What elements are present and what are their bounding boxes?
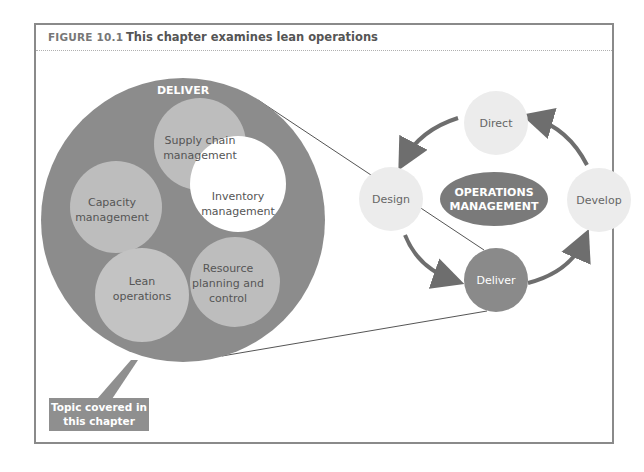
arrow-develop-to-direct-icon	[533, 118, 587, 165]
center-label-line1: OPERATIONS	[454, 186, 533, 199]
topic-label: Inventory	[212, 190, 265, 203]
topic-label: Resource	[203, 262, 254, 275]
center-ellipse	[440, 172, 548, 226]
arrow-direct-to-design-icon	[404, 118, 458, 160]
center-label-line2: MANAGEMENT	[450, 200, 539, 213]
deliver-detail-group: DELIVER Supply chain management Capacity…	[41, 78, 325, 362]
deliver-detail-label: DELIVER	[157, 84, 210, 97]
topic-label: management	[75, 211, 149, 224]
topic-label: Capacity	[88, 196, 137, 209]
topic-label: Supply chain	[165, 134, 236, 147]
topic-label: management	[201, 205, 275, 218]
topic-label: control	[209, 292, 247, 305]
topic-callout: Topic covered in this chapter	[49, 398, 149, 431]
callout-line1: Topic covered in	[49, 400, 149, 414]
cycle-nodes: Direct Design Develop Deliver OPERATIONS…	[359, 91, 631, 312]
topic-label: management	[163, 149, 237, 162]
arrow-deliver-to-develop-icon	[528, 240, 584, 283]
node-deliver-label: Deliver	[476, 274, 516, 287]
topic-label: Lean	[129, 275, 155, 288]
node-develop-label: Develop	[576, 194, 621, 207]
callout-line2: this chapter	[49, 414, 149, 428]
callout-pointer	[97, 360, 138, 399]
node-design-label: Design	[372, 193, 410, 206]
topic-label: operations	[113, 290, 172, 303]
node-direct-label: Direct	[480, 117, 514, 130]
topic-label: planning and	[192, 277, 264, 290]
arrow-design-to-deliver-icon	[405, 235, 453, 280]
